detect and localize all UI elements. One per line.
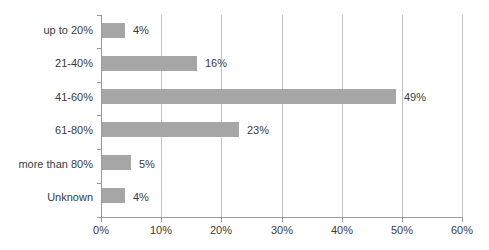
- category-label-text: 41-60%: [55, 91, 93, 103]
- value-label-41-60: 49%: [404, 91, 426, 104]
- x-tick-20: [221, 217, 222, 222]
- x-tick-0: [101, 217, 102, 222]
- bar-41-60[interactable]: [101, 89, 396, 104]
- x-tick-label-20: 20%: [199, 224, 243, 237]
- y-tick-3: [97, 115, 102, 116]
- category-label-61-80: 61-80%: [0, 124, 93, 137]
- x-tick-30: [282, 217, 283, 222]
- x-tick-10: [161, 217, 162, 222]
- category-label-unknown: Unknown: [0, 191, 93, 204]
- x-tick-label-10: 10%: [139, 224, 183, 237]
- x-tick-label-30: 30%: [260, 224, 304, 237]
- bar-up-to-20[interactable]: [101, 23, 125, 38]
- category-label-text: 21-40%: [55, 57, 93, 69]
- x-tick-40: [342, 217, 343, 222]
- x-tick-60: [462, 217, 463, 222]
- bar-21-40[interactable]: [101, 56, 197, 71]
- x-tick-label-60: 60%: [440, 224, 484, 237]
- gridline-40: [342, 15, 343, 217]
- x-tick-label-50: 50%: [380, 224, 424, 237]
- value-label-21-40: 16%: [205, 57, 227, 70]
- category-label-text: more than 80%: [18, 158, 93, 170]
- y-tick-1: [97, 48, 102, 49]
- bar-chart: up to 20% 21-40% 41-60% 61-80% more than…: [0, 0, 489, 250]
- category-label-text: up to 20%: [43, 24, 93, 36]
- category-label-41-60: 41-60%: [0, 91, 93, 104]
- category-label-more-than-80: more than 80%: [0, 158, 93, 171]
- bar-61-80[interactable]: [101, 122, 239, 137]
- gridline-50: [402, 15, 403, 217]
- x-tick-label-40: 40%: [320, 224, 364, 237]
- bar-unknown[interactable]: [101, 188, 125, 203]
- plot-area: [101, 15, 462, 217]
- y-axis-line: [101, 15, 102, 217]
- value-label-up-to-20: 4%: [133, 24, 149, 37]
- value-label-more-than-80: 5%: [139, 158, 155, 171]
- bar-more-than-80[interactable]: [101, 155, 131, 170]
- y-tick-5: [97, 183, 102, 184]
- category-label-21-40: 21-40%: [0, 57, 93, 70]
- gridline-10: [161, 15, 162, 217]
- x-tick-50: [402, 217, 403, 222]
- gridline-60: [462, 15, 463, 217]
- category-label-text: Unknown: [47, 191, 93, 203]
- category-label-up-to-20: up to 20%: [0, 24, 93, 37]
- value-label-61-80: 23%: [247, 124, 269, 137]
- x-tick-label-0: 0%: [79, 224, 123, 237]
- gridline-20: [221, 15, 222, 217]
- gridline-30: [282, 15, 283, 217]
- y-tick-4: [97, 149, 102, 150]
- category-label-text: 61-80%: [55, 124, 93, 136]
- y-tick-2: [97, 82, 102, 83]
- y-tick-0: [97, 15, 102, 16]
- value-label-unknown: 4%: [133, 191, 149, 204]
